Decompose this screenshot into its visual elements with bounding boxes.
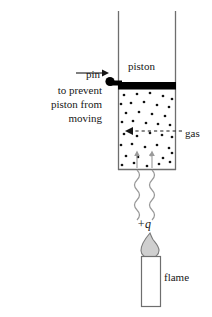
pin-head-icon — [105, 77, 114, 86]
pin-description-line-3: moving — [2, 111, 102, 125]
flame-label: flame — [164, 271, 189, 284]
figure-canvas — [0, 0, 212, 317]
pin-description-line-1: to prevent — [2, 83, 102, 97]
gas-particles — [120, 92, 174, 168]
piston-label: piston — [128, 60, 155, 73]
pin-description-block: to prevent piston from moving — [2, 83, 102, 125]
heat-inflow-arrows — [134, 151, 155, 169]
heat-wave-squiggles — [135, 170, 155, 220]
thermodynamics-figure: pin to prevent piston from moving piston… — [0, 0, 212, 317]
heat-quantity-label: +q — [137, 218, 151, 231]
piston-bar — [118, 82, 176, 90]
gas-label: gas — [185, 127, 200, 140]
pin-label: pin — [8, 68, 100, 81]
candle-body — [142, 257, 161, 307]
gas-leader-arrow — [125, 127, 182, 135]
pin-description-line-2: piston from — [2, 97, 102, 111]
flame-icon — [141, 233, 159, 258]
